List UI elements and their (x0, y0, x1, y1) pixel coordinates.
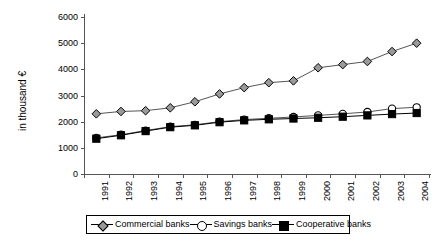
data-point (265, 78, 274, 87)
data-point (93, 135, 100, 142)
data-point (314, 63, 323, 72)
data-point (142, 127, 149, 134)
data-point (388, 110, 395, 117)
data-point (363, 57, 372, 66)
data-point (216, 119, 223, 126)
legend-item[interactable]: Cooperative banks (272, 219, 371, 230)
square-icon (272, 219, 294, 230)
data-point (191, 97, 200, 106)
data-point (388, 47, 397, 56)
data-point (412, 39, 421, 48)
data-point (338, 60, 347, 69)
data-point (166, 103, 175, 112)
data-point (141, 106, 150, 115)
circle-icon (190, 219, 212, 230)
data-point (240, 83, 249, 92)
data-point (167, 124, 174, 131)
data-point (241, 117, 248, 124)
data-point (191, 122, 198, 129)
legend-label: Commercial banks (115, 220, 190, 229)
legend-label: Cooperative banks (296, 220, 371, 229)
series-cooperative-banks (93, 109, 421, 142)
data-point (289, 77, 298, 86)
data-point (265, 116, 272, 123)
legend-item[interactable]: Savings banks (190, 219, 273, 230)
line-chart: in thousand € 0100020003000400050006000 … (0, 0, 436, 241)
data-point (92, 110, 101, 119)
data-point (117, 107, 126, 116)
data-point (339, 113, 346, 120)
chart-legend: Commercial banksSavings banksCooperative… (86, 215, 350, 234)
data-point (315, 114, 322, 121)
legend-item[interactable]: Commercial banks (91, 219, 190, 230)
series-line (96, 43, 416, 114)
data-point (413, 109, 420, 116)
legend-label: Savings banks (214, 220, 273, 229)
data-point (364, 112, 371, 119)
diamond-icon (91, 219, 113, 230)
data-point (117, 132, 124, 139)
data-point (215, 90, 224, 99)
series-commercial-banks (92, 39, 421, 118)
series-plot (0, 0, 436, 241)
series-savings-banks (93, 104, 421, 142)
data-point (290, 115, 297, 122)
